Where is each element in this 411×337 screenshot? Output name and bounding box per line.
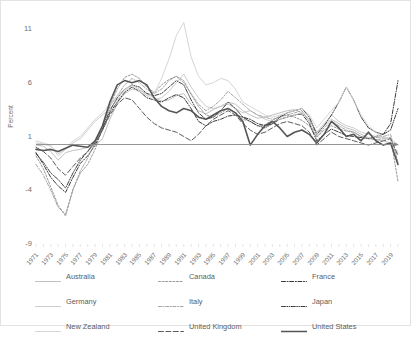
japan-line-key [281, 297, 307, 306]
legend-item[interactable]: Germany [35, 296, 158, 307]
germany-line-key [35, 297, 61, 306]
legend-item[interactable]: Australia [35, 271, 158, 282]
series-line-france [36, 81, 398, 193]
legend-item-label: Italy [189, 297, 203, 306]
legend-item[interactable]: Japan [281, 296, 404, 307]
legend-item[interactable]: New Zealand [35, 321, 158, 332]
legend-item-label: United Kingdom [189, 322, 242, 331]
australia-line-key [35, 272, 61, 281]
series-line-new-zealand [36, 23, 398, 156]
legend-item[interactable]: Canada [158, 271, 281, 282]
series-lines [36, 23, 398, 217]
legend-item[interactable]: United Kingdom [158, 321, 281, 332]
x-axis-ticks [36, 244, 398, 247]
legend-item-label: Australia [66, 272, 95, 281]
new-zealand-line-key [35, 322, 61, 331]
legend-item[interactable]: Italy [158, 296, 281, 307]
legend-item-label: Canada [189, 272, 215, 281]
united-states-line-key [281, 322, 307, 331]
legend-item-label: New Zealand [66, 322, 110, 331]
italy-line-key [158, 297, 184, 306]
legend-item-label: Germany [66, 297, 96, 306]
legend-item[interactable]: France [281, 271, 404, 282]
legend-item-label: United States [312, 322, 356, 331]
legend-item[interactable]: United States [281, 321, 404, 332]
france-line-key [281, 272, 307, 281]
canada-line-key [158, 272, 184, 281]
chart-legend: AustraliaCanadaFranceGermanyItalyJapanNe… [35, 271, 407, 332]
series-line-united-kingdom [36, 98, 398, 175]
united-kingdom-line-key [158, 322, 184, 331]
legend-item-label: Japan [312, 297, 332, 306]
legend-item-label: France [312, 272, 335, 281]
